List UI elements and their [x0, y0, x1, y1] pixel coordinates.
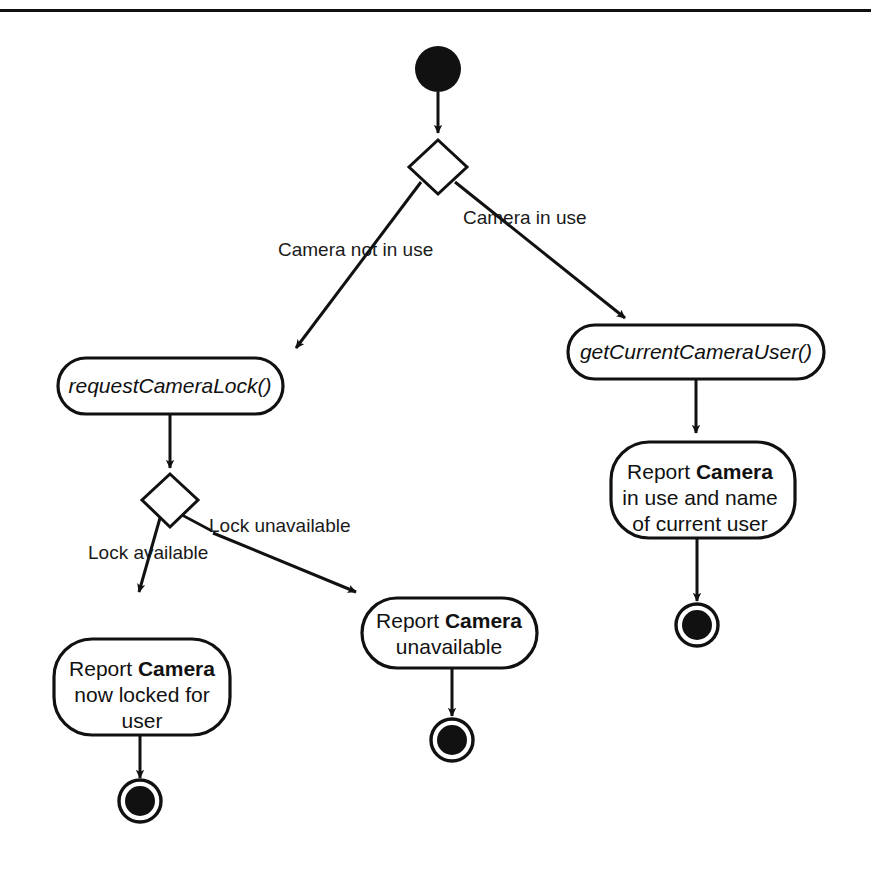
report-unavailable-bold: Camera	[445, 609, 522, 632]
activity-diagram: Camera not in use Camera in use requestC…	[0, 0, 871, 872]
report-camera-now-locked-line1: Report Camera	[69, 657, 215, 680]
start-node	[415, 46, 461, 92]
report-camera-now-locked-line2: now locked for	[74, 683, 209, 706]
activity-get-current-camera-user-label: getCurrentCameraUser()	[580, 340, 812, 363]
report-camera-unavailable-line2: unavailable	[396, 635, 502, 658]
report-now-locked-prefix: Report	[69, 657, 138, 680]
edge-label-lock-available: Lock available	[88, 542, 208, 563]
edge-lock-unavailable-stub	[182, 515, 212, 531]
report-camera-unavailable-line1: Report Camera	[376, 609, 522, 632]
edge-label-camera-in-use: Camera in use	[463, 207, 587, 228]
activity-diagram-canvas: Camera not in use Camera in use requestC…	[0, 0, 871, 872]
edge-label-lock-unavailable: Lock unavailable	[209, 515, 351, 536]
edge-label-camera-not-in-use: Camera not in use	[278, 239, 433, 260]
report-in-use-bold: Camera	[696, 460, 773, 483]
edge-camera-not-in-use	[296, 182, 421, 348]
report-in-use-prefix: Report	[627, 460, 696, 483]
report-camera-in-use-line3: of current user	[632, 512, 767, 535]
report-camera-now-locked-line3: user	[122, 709, 163, 732]
end-node-in-use	[682, 610, 712, 640]
end-node-locked	[125, 786, 155, 816]
edge-lock-unavailable	[213, 533, 356, 592]
end-node-unavailable	[437, 725, 467, 755]
report-camera-in-use-line1: Report Camera	[627, 460, 773, 483]
edge-camera-in-use	[455, 182, 625, 318]
activity-request-camera-lock-label: requestCameraLock()	[68, 374, 271, 397]
report-unavailable-prefix: Report	[376, 609, 445, 632]
report-now-locked-bold: Camera	[138, 657, 215, 680]
report-camera-in-use-line2: in use and name	[622, 486, 777, 509]
